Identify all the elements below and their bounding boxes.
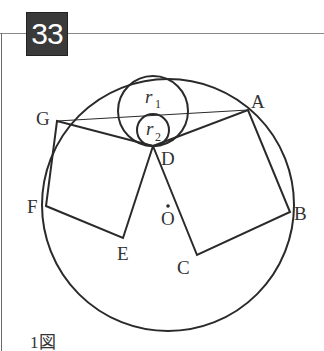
label-f: F — [27, 196, 38, 217]
label-d: D — [161, 148, 175, 169]
figure-caption: 1図 — [30, 328, 56, 351]
label-r1: r — [145, 86, 153, 107]
label-r2-subscript: 2 — [155, 130, 161, 144]
geometry-figure: A B C D E F G O r 1 r 2 — [0, 0, 324, 351]
label-e: E — [117, 243, 129, 264]
label-b: B — [294, 203, 307, 224]
label-c: C — [177, 257, 190, 278]
label-r1-subscript: 1 — [155, 97, 161, 111]
label-a: A — [251, 91, 265, 112]
label-o: O — [161, 208, 175, 229]
label-g: G — [36, 108, 50, 129]
label-r2: r — [146, 118, 154, 139]
